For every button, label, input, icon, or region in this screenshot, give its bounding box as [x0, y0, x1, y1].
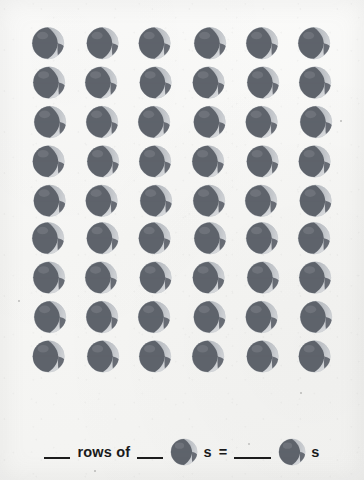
beach-ball-icon: [31, 182, 67, 218]
beach-ball-icon: [277, 437, 307, 467]
scan-speck: [18, 300, 20, 302]
beach-ball-icon: [84, 220, 120, 256]
beach-ball-icon: [298, 182, 334, 218]
beach-ball-icon: [31, 64, 67, 100]
ball-array-grid: [22, 24, 342, 375]
beach-ball-icon: [244, 25, 280, 61]
beach-ball-icon: [190, 64, 226, 100]
equation-line: rows of s =: [0, 437, 364, 467]
beach-ball-icon: [83, 182, 119, 218]
worksheet-page: rows of s =: [0, 0, 364, 480]
beach-ball-icon: [136, 299, 172, 335]
beach-ball-icon: [190, 259, 226, 295]
beach-ball-icon: [191, 299, 227, 335]
beach-ball-icon: [138, 182, 174, 218]
beach-ball-icon: [137, 143, 173, 179]
beach-ball-icon: [245, 64, 281, 100]
beach-ball-icon: [31, 259, 67, 295]
beach-ball-icon: [32, 104, 68, 140]
beach-ball-icon: [85, 338, 121, 374]
beach-ball-icon: [297, 259, 333, 295]
beach-ball-icon: [243, 104, 279, 140]
beach-ball-icon: [192, 25, 228, 61]
beach-ball-icon: [191, 182, 227, 218]
beach-ball-icon: [298, 299, 334, 335]
scan-speck: [94, 470, 96, 472]
beach-ball-icon: [296, 220, 332, 256]
equals-sign: =: [219, 444, 228, 460]
beach-ball-icon: [84, 104, 120, 140]
beach-ball-icon: [137, 338, 173, 374]
beach-ball-icon: [243, 299, 279, 335]
beach-ball-icon: [190, 143, 226, 179]
beach-ball-icon: [298, 104, 334, 140]
beach-ball-icon: [137, 25, 173, 61]
blank-rows[interactable]: [44, 444, 70, 459]
beach-ball-icon: [297, 64, 333, 100]
beach-ball-icon: [244, 143, 280, 179]
beach-ball-icon: [191, 104, 227, 140]
beach-ball-icon: [138, 259, 174, 295]
beach-ball-icon: [30, 338, 66, 374]
beach-ball-icon: [138, 64, 174, 100]
beach-ball-icon: [32, 299, 68, 335]
beach-ball-icon: [137, 220, 173, 256]
beach-ball-icon: [136, 104, 172, 140]
blank-per-row[interactable]: [137, 444, 163, 459]
suffix-right-s: s: [311, 444, 319, 460]
beach-ball-icon: [85, 143, 121, 179]
beach-ball-icon: [297, 143, 333, 179]
beach-ball-icon: [190, 338, 226, 374]
label-rows-of: rows of: [77, 444, 130, 460]
beach-ball-icon: [169, 437, 199, 467]
beach-ball-icon: [30, 220, 66, 256]
beach-ball-icon: [245, 259, 281, 295]
beach-ball-icon: [83, 259, 119, 295]
beach-ball-icon: [84, 299, 120, 335]
blank-total[interactable]: [234, 444, 271, 459]
beach-ball-icon: [30, 25, 66, 61]
beach-ball-icon: [243, 182, 279, 218]
scan-speck: [300, 392, 302, 394]
beach-ball-icon: [30, 143, 66, 179]
beach-ball-icon: [296, 25, 332, 61]
beach-ball-icon: [192, 220, 228, 256]
beach-ball-icon: [244, 220, 280, 256]
beach-ball-icon: [244, 338, 280, 374]
suffix-left-s: s: [203, 444, 211, 460]
beach-ball-icon: [83, 64, 119, 100]
beach-ball-icon: [297, 338, 333, 374]
beach-ball-icon: [84, 25, 120, 61]
